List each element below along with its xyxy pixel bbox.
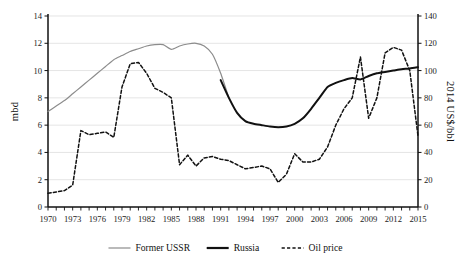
tick-label-x: 2012 [385,214,402,224]
tick-label-y-right: 60 [424,120,433,130]
tick-label-y-right: 0 [424,202,428,212]
axis-title-left: mbd [9,101,20,121]
axis-title-right: 2014 US$/bbl [445,81,456,142]
tick-label-x: 1994 [237,214,255,224]
tick-label-y-right: 80 [424,93,433,103]
oil-production-price-chart: 0246810121402040608010012014019701973197… [0,0,459,269]
tick-label-y-left: 8 [38,93,42,103]
tick-label-y-right: 40 [424,147,433,157]
tick-label-y-left: 6 [38,120,43,130]
series-line-oil-price [48,47,418,193]
tick-label-y-left: 2 [38,175,42,185]
tick-label-x: 2009 [360,214,377,224]
tick-label-y-left: 14 [33,11,42,21]
tick-label-x: 1988 [187,214,204,224]
tick-label-x: 2003 [311,214,328,224]
tick-label-y-left: 12 [33,38,42,48]
tick-label-y-left: 10 [33,66,42,76]
legend-label-oil-price: Oil price [309,242,343,253]
tick-label-x: 2006 [335,214,353,224]
tick-label-y-left: 4 [38,147,43,157]
series-line-former-ussr [48,43,229,111]
series-line-russia [221,67,418,127]
tick-label-y-right: 120 [424,38,437,48]
tick-label-x: 1982 [138,214,155,224]
tick-label-x: 1997 [261,214,279,224]
tick-label-x: 1976 [89,214,107,224]
tick-label-y-right: 20 [424,175,433,185]
tick-label-y-right: 100 [424,66,437,76]
legend-label-russia: Russia [234,242,260,253]
tick-label-y-left: 0 [38,202,42,212]
chart-figure: 0246810121402040608010012014019701973197… [0,0,459,269]
tick-label-x: 1985 [163,214,180,224]
tick-label-x: 1973 [64,214,81,224]
tick-label-y-right: 140 [424,11,437,21]
legend-label-former-ussr: Former USSR [135,242,190,253]
tick-label-x: 2015 [409,214,426,224]
tick-label-x: 1970 [39,214,56,224]
tick-label-x: 1979 [113,214,130,224]
tick-label-x: 2000 [286,214,303,224]
tick-label-x: 1991 [212,214,229,224]
